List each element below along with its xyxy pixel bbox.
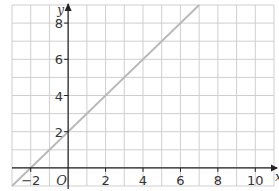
chart: −22468102468 x y O <box>0 0 279 191</box>
y-tick-label: 4 <box>55 89 63 104</box>
ticks: −22468102468 <box>21 16 263 188</box>
x-tick-label: 4 <box>139 173 147 188</box>
grid <box>12 5 274 186</box>
x-tick-label: 2 <box>101 173 109 188</box>
y-axis-label: y <box>56 3 64 17</box>
origin-label: O <box>56 173 67 188</box>
y-tick-label: 2 <box>55 125 63 140</box>
x-tick-label: 8 <box>214 173 222 188</box>
x-axis-label: x <box>275 170 279 184</box>
y-axis-arrow <box>65 3 72 11</box>
y-tick-label: 6 <box>55 52 63 67</box>
x-tick-label: 10 <box>247 173 264 188</box>
x-tick-label: 6 <box>176 173 184 188</box>
y-tick-label: 8 <box>55 16 63 31</box>
x-tick-label: −2 <box>21 173 40 188</box>
